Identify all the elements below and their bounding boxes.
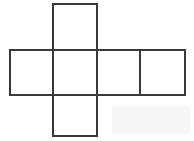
net-face-middle-right — [140, 50, 185, 95]
net-face-top — [53, 4, 97, 50]
cube-net-svg — [0, 0, 194, 141]
cube-net-figure — [0, 0, 194, 141]
net-face-middle-center-left — [53, 50, 97, 95]
net-face-middle-center-right — [97, 50, 140, 95]
net-face-middle-left — [10, 50, 53, 95]
net-face-bottom — [53, 95, 97, 136]
